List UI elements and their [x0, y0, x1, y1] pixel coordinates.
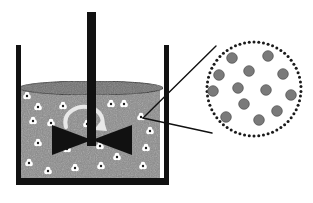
particle-core [140, 116, 142, 118]
magnified-region-dot [267, 132, 270, 135]
magnified-region-dot [208, 104, 211, 107]
magnified-region-group [206, 41, 303, 138]
magnified-region-dot [234, 44, 237, 47]
magnified-region-dot [234, 131, 237, 134]
magnified-region-dot [287, 120, 290, 123]
magnified-region-dot [257, 41, 260, 44]
magnified-particle [261, 85, 272, 96]
magnified-region-dot [238, 43, 241, 46]
magnified-region-dot [262, 134, 265, 137]
magnified-particle [221, 112, 232, 123]
particle-core [110, 103, 112, 105]
magnified-region-dot [222, 52, 225, 55]
magnified-region-dot [253, 41, 256, 44]
magnified-region-dot [290, 116, 293, 119]
magnified-particle-layer [208, 51, 297, 126]
magnified-region-dot [222, 123, 225, 126]
callout-line [143, 46, 216, 118]
magnified-region-dot [299, 90, 302, 93]
magnified-region-dot [215, 59, 218, 62]
magnified-region-dot [206, 85, 209, 88]
magnified-region-dot [248, 134, 251, 137]
magnified-region-dot [279, 126, 282, 129]
magnified-region-ring [206, 41, 303, 138]
magnified-region-dot [230, 46, 233, 49]
particle-core [62, 105, 64, 107]
vessel-right-wall [164, 45, 169, 183]
magnified-particle [214, 70, 225, 81]
particle-core [149, 130, 151, 132]
magnified-region-dot [298, 76, 301, 79]
magnified-region-dot [271, 131, 274, 134]
magnified-region-dot [267, 43, 270, 46]
particle-core [74, 167, 76, 169]
magnified-region-dot [257, 134, 260, 137]
magnified-particle [239, 99, 250, 110]
magnified-region-dot [243, 41, 246, 44]
magnified-particle [263, 51, 274, 62]
particle-core [99, 145, 101, 147]
magnified-region-dot [207, 99, 210, 102]
magnified-region-dot [208, 71, 211, 74]
magnified-region-dot [295, 108, 298, 111]
figure-root: Cross-section drawing of a stirred tank:… [0, 0, 313, 203]
magnified-particle [233, 83, 244, 94]
magnified-region-dot [243, 134, 246, 137]
magnified-region-dot [287, 55, 290, 58]
magnified-region-dot [298, 99, 301, 102]
particle-core [100, 165, 102, 167]
magnified-region-dot [218, 120, 221, 123]
particle-core [26, 95, 28, 97]
magnified-region-dot [213, 112, 216, 115]
magnified-region-dot [295, 67, 298, 70]
magnified-region-dot [279, 49, 282, 52]
magnified-region-dot [226, 126, 229, 129]
magnified-region-dot [213, 63, 216, 66]
magnified-region-dot [262, 41, 265, 44]
particle-core [28, 162, 30, 164]
magnified-particle [208, 86, 219, 97]
magnified-region-dot [292, 112, 295, 115]
magnified-region-dot [218, 55, 221, 58]
magnified-region-dot [230, 129, 233, 132]
magnified-region-dot [253, 135, 256, 138]
particle-core [50, 122, 52, 124]
magnified-region-dot [297, 104, 300, 107]
magnified-region-dot [207, 76, 210, 79]
magnified-region-dot [271, 44, 274, 47]
particle-core [116, 156, 118, 158]
magnified-region-dot [275, 46, 278, 49]
magnified-region-dot [248, 41, 251, 44]
vessel-bottom [16, 178, 169, 185]
particle-core [37, 106, 39, 108]
particle-core [145, 147, 147, 149]
magnified-particle [278, 69, 289, 80]
magnified-region-dot [210, 108, 213, 111]
magnified-region-dot [299, 85, 302, 88]
magnified-region-dot [275, 129, 278, 132]
vessel-left-wall [16, 45, 21, 183]
magnified-region-dot [290, 59, 293, 62]
magnified-region-dot [283, 123, 286, 126]
magnified-region-dot [299, 95, 302, 98]
stirred-tank-diagram [0, 0, 313, 203]
magnified-particle [244, 66, 255, 77]
magnified-region-dot [238, 132, 241, 135]
magnified-particle [272, 106, 283, 117]
magnified-region-dot [292, 63, 295, 66]
magnified-region-dot [299, 80, 302, 83]
magnified-region-dot [226, 49, 229, 52]
particle-core [37, 142, 39, 144]
magnified-region-dot [283, 52, 286, 55]
particle-core [47, 170, 49, 172]
magnified-particle [286, 90, 297, 101]
magnified-particle [254, 115, 265, 126]
particle-core [32, 120, 34, 122]
magnified-particle [227, 53, 238, 64]
magnified-region-dot [297, 71, 300, 74]
particle-core [123, 103, 125, 105]
magnified-region-dot [210, 67, 213, 70]
particle-core [142, 165, 144, 167]
magnified-region-dot [206, 95, 209, 98]
stirrer-shaft [87, 12, 96, 146]
